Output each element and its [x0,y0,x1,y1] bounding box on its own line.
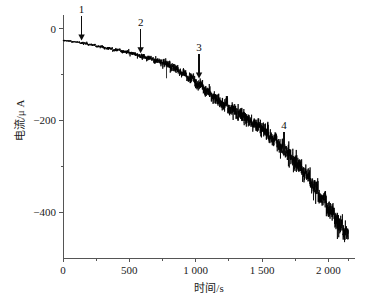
annotation-label: 3 [196,41,202,53]
arrow-annotations: 1234 [78,3,287,156]
axes [59,15,355,262]
annotation-marker-2: 2 [137,16,143,53]
x-tick-label: 1 500 [250,264,275,276]
chronoamperometry-figure: 1234 0−200−40005001 0001 5002 000时间/s电流/… [0,0,371,305]
annotation-label: 4 [281,119,287,131]
arrow-head-icon [78,34,84,40]
arrow-head-icon [196,72,202,78]
arrow-head-icon [137,47,143,53]
annotation-marker-1: 1 [78,3,84,40]
annotation-label: 2 [138,16,144,28]
x-tick-label: 0 [60,264,66,276]
current-time-trace [63,40,348,242]
data-trace [63,40,348,242]
y-tick-label: −400 [33,206,56,218]
y-tick-label: 0 [51,23,57,35]
annotation-marker-4: 4 [281,119,287,156]
x-tick-label: 2 000 [316,264,341,276]
y-tick-label: −200 [33,114,56,126]
annotation-label: 1 [79,3,85,15]
x-tick-label: 1 000 [183,264,208,276]
chart-canvas: 1234 0−200−40005001 0001 5002 000时间/s电流/… [0,0,371,305]
annotation-marker-3: 3 [196,41,202,78]
x-tick-label: 500 [121,264,138,276]
y-axis-title: 电流/μ A [13,100,26,142]
x-axis-title: 时间/s [194,282,223,294]
